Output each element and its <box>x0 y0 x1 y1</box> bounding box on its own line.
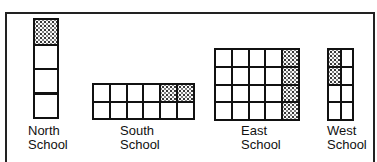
north-divider <box>35 44 57 46</box>
grid-cell <box>329 103 340 119</box>
west-school-label: West School <box>327 124 367 152</box>
grid-cell <box>111 85 126 101</box>
grid-cell <box>111 103 126 119</box>
south-label-line2: School <box>120 138 160 152</box>
grid-cell <box>342 50 353 66</box>
grid-cell <box>233 68 248 84</box>
grid-cell <box>342 103 353 119</box>
north-label-line2: School <box>28 138 68 152</box>
grid-cell <box>94 103 109 119</box>
grid-cell <box>250 68 265 84</box>
grid-cell <box>250 50 265 66</box>
north-school-label: North School <box>28 124 68 152</box>
grid-cell <box>233 50 248 66</box>
grid-cell <box>329 86 340 102</box>
grid-cell <box>216 50 231 66</box>
grid-cell-shaded <box>178 85 193 101</box>
grid-cell <box>266 50 281 66</box>
grid-cell <box>161 103 176 119</box>
grid-cell <box>250 86 265 102</box>
north-divider <box>35 68 57 70</box>
grid-cell-shaded <box>283 50 298 66</box>
grid-cell <box>250 103 265 119</box>
west-label-line1: West <box>327 124 367 138</box>
grid-cell <box>266 86 281 102</box>
grid-cell <box>94 85 109 101</box>
grid-cell <box>128 103 143 119</box>
grid-cell <box>266 68 281 84</box>
north-shaded-cell <box>35 20 57 44</box>
south-school-grid <box>92 83 195 120</box>
grid-cell <box>216 86 231 102</box>
grid-cell <box>144 85 159 101</box>
east-school-grid <box>214 48 300 121</box>
grid-cell <box>216 68 231 84</box>
north-school-bar <box>33 18 59 119</box>
grid-cell-shaded <box>329 50 340 66</box>
grid-cell-shaded <box>329 68 340 84</box>
east-label-line1: East <box>241 124 281 138</box>
grid-cell <box>144 103 159 119</box>
grid-cell <box>178 103 193 119</box>
grid-cell <box>128 85 143 101</box>
west-label-line2: School <box>327 138 367 152</box>
grid-cell <box>342 86 353 102</box>
south-school-label: South School <box>120 124 160 152</box>
grid-cell <box>233 86 248 102</box>
east-label-line2: School <box>241 138 281 152</box>
grid-cell <box>233 103 248 119</box>
south-label-line1: South <box>120 124 160 138</box>
west-school-grid <box>327 48 354 121</box>
grid-cell <box>266 103 281 119</box>
grid-cell-shaded <box>161 85 176 101</box>
grid-cell-shaded <box>283 68 298 84</box>
grid-cell <box>342 68 353 84</box>
east-school-label: East School <box>241 124 281 152</box>
north-label-line1: North <box>28 124 68 138</box>
grid-cell <box>216 103 231 119</box>
grid-cell-shaded <box>283 103 298 119</box>
north-divider <box>35 92 57 95</box>
grid-cell-shaded <box>283 86 298 102</box>
